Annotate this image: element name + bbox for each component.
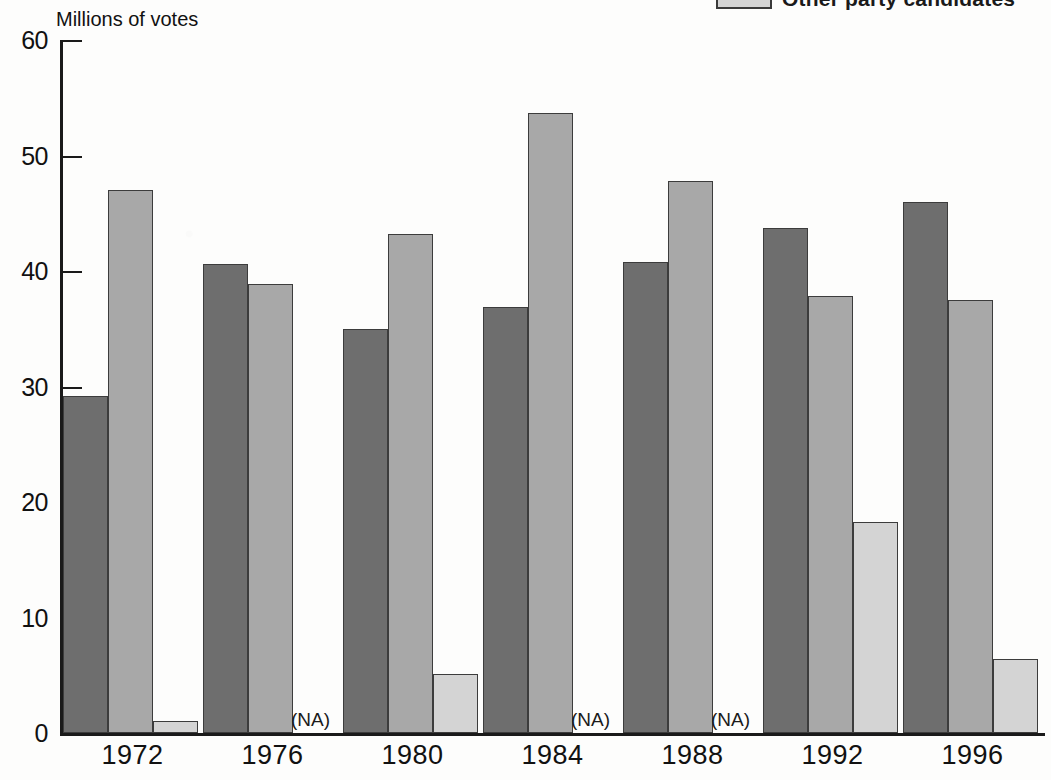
bar-chart: Other party candidates Millions of votes… [0,0,1051,780]
na-label: (NA) [571,709,610,731]
x-tick-label: 1984 [521,740,583,771]
chart-legend: Other party candidates [716,0,1015,12]
x-tick-label: 1992 [801,740,863,771]
y-tick-label: 60 [21,26,48,55]
y-tick-label: 10 [21,603,48,632]
bar [248,284,293,733]
x-tick-label: 1980 [381,740,443,771]
bar [903,202,948,733]
bar [108,190,153,733]
bar [528,113,573,733]
bar-group [343,40,478,733]
bar-group [903,40,1038,733]
legend-label-other-party: Other party candidates [782,0,1015,11]
plot-area: (NA)(NA)(NA) [60,40,1045,733]
y-tick-label: 40 [21,257,48,286]
bar-group [63,40,198,733]
x-tick-label: 1988 [661,740,723,771]
bar [63,396,108,733]
na-label: (NA) [291,709,330,731]
bar-group: (NA) [483,40,618,733]
bar [153,721,198,733]
x-axis-line [60,733,1045,736]
x-tick-label: 1972 [101,740,163,771]
x-axis-tick-labels: 1972197619801984198819921996 [60,740,1045,780]
bar [203,264,248,733]
bar [808,296,853,733]
y-axis-tick-labels: 0102030405060 [0,40,52,733]
y-tick-label: 0 [35,719,48,748]
bar [343,329,388,733]
bar [433,674,478,733]
bar [668,181,713,733]
bar-group [763,40,898,733]
x-tick-label: 1996 [941,740,1003,771]
bar [763,228,808,733]
legend-swatch-other-party [716,0,772,9]
y-axis-tick [60,733,82,735]
bar [388,234,433,733]
y-tick-label: 50 [21,141,48,170]
y-tick-label: 20 [21,488,48,517]
bar [853,522,898,733]
y-axis-title: Millions of votes [56,8,198,31]
y-tick-label: 30 [21,372,48,401]
bar-group: (NA) [203,40,338,733]
bar [623,262,668,733]
bar-group: (NA) [623,40,758,733]
bar [483,307,528,733]
bar [948,300,993,733]
na-label: (NA) [711,709,750,731]
x-tick-label: 1976 [241,740,303,771]
bar [993,659,1038,733]
